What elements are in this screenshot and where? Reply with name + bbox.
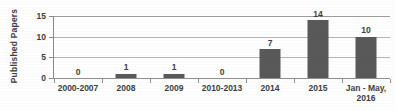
x-category-label: 2009 bbox=[150, 83, 198, 93]
bar-column[interactable]: 14 bbox=[294, 16, 342, 78]
bar-value-label: 0 bbox=[220, 68, 225, 77]
x-category-label: 2010-2013 bbox=[198, 83, 246, 93]
plot-area: 011071410 bbox=[54, 16, 390, 78]
bar-column[interactable]: 1 bbox=[150, 16, 198, 78]
x-category-label: 2015 bbox=[294, 83, 342, 93]
y-tick-label-5: 5 bbox=[8, 53, 46, 62]
bar-column[interactable]: 10 bbox=[342, 16, 390, 78]
y-tick-label-15: 15 bbox=[8, 12, 46, 21]
x-category-label: Jan - May, 2016 bbox=[342, 83, 390, 103]
y-tick-label-0: 0 bbox=[8, 74, 46, 83]
bar-column[interactable]: 0 bbox=[54, 16, 102, 78]
y-tick-10 bbox=[49, 37, 53, 38]
x-category-label: 2014 bbox=[246, 83, 294, 93]
bar-value-label: 14 bbox=[313, 10, 322, 19]
bar[interactable] bbox=[356, 37, 377, 78]
bar[interactable] bbox=[260, 49, 281, 78]
bar-value-label: 0 bbox=[76, 68, 81, 77]
bar-value-label: 1 bbox=[124, 63, 129, 72]
bar-chart: Published Papers 051015 011071410 2000-2… bbox=[0, 0, 395, 110]
bar-value-label: 10 bbox=[361, 26, 370, 35]
bar-value-label: 1 bbox=[172, 63, 177, 72]
x-tick bbox=[390, 79, 391, 83]
bar[interactable] bbox=[308, 20, 329, 78]
x-axis-line bbox=[53, 78, 390, 79]
y-tick-5 bbox=[49, 57, 53, 58]
x-category-label: 2000-2007 bbox=[54, 83, 102, 93]
bar-column[interactable]: 7 bbox=[246, 16, 294, 78]
bar-column[interactable]: 1 bbox=[102, 16, 150, 78]
y-tick-label-10: 10 bbox=[8, 33, 46, 42]
x-category-label: 2008 bbox=[102, 83, 150, 93]
bar-value-label: 7 bbox=[268, 39, 273, 48]
y-tick-15 bbox=[49, 16, 53, 17]
bar-column[interactable]: 0 bbox=[198, 16, 246, 78]
